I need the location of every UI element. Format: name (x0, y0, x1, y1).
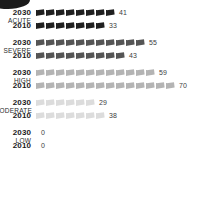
flag-icon (56, 22, 65, 29)
row-value-label: 0 (41, 126, 45, 139)
row-icon-strip (36, 96, 95, 109)
flag-icon (36, 69, 45, 76)
flag-icon (66, 69, 75, 76)
flag-icon (36, 22, 45, 29)
flag-icon (96, 112, 105, 119)
flag-icon (36, 112, 45, 119)
flag-icon (136, 39, 145, 46)
flag-icon (66, 9, 75, 16)
category-label-high: HIGH (0, 77, 36, 85)
flag-icon (76, 99, 85, 106)
flag-icon (156, 82, 165, 89)
flag-icon (46, 112, 55, 119)
flag-icon (126, 39, 135, 46)
flag-icon (66, 82, 75, 89)
flag-icon (66, 52, 75, 59)
flag-icon (66, 22, 75, 29)
row-value-label: 43 (129, 49, 137, 62)
flag-icon (86, 22, 95, 29)
flag-icon (96, 52, 105, 59)
flag-icon (86, 112, 95, 119)
flag-icon (36, 9, 45, 16)
flag-icon (106, 52, 115, 59)
flag-icon (86, 82, 95, 89)
flag-icon (66, 99, 75, 106)
flag-icon (46, 82, 55, 89)
flag-icon (136, 82, 145, 89)
flag-icon (76, 82, 85, 89)
category-label-moderate: MODERATE (0, 107, 36, 115)
flag-icon (86, 69, 95, 76)
chart-group-low: 2030020100LOW (0, 126, 215, 152)
row-value-label: 38 (109, 109, 117, 122)
flag-icon (126, 82, 135, 89)
flag-icon (146, 82, 155, 89)
flag-icon (96, 9, 105, 16)
flag-icon (76, 22, 85, 29)
row-icon-strip (36, 36, 145, 49)
flag-icon (76, 112, 85, 119)
flag-icon (116, 82, 125, 89)
row-icon-strip (36, 49, 125, 62)
flag-icon (96, 22, 105, 29)
flag-icon (136, 69, 145, 76)
chart-group-high: 203059201070HIGH (0, 66, 215, 92)
flag-icon (96, 69, 105, 76)
flag-icon (96, 82, 105, 89)
row-value-label: 41 (119, 6, 127, 19)
flag-icon (96, 39, 105, 46)
row-icon-strip (36, 66, 155, 79)
flag-icon (116, 39, 125, 46)
flag-icon (46, 99, 55, 106)
flag-icon (66, 112, 75, 119)
chart-groups-container: 203041201033ACUTE203055201043SEVERE20305… (0, 0, 215, 156)
flag-icon (76, 69, 85, 76)
flag-icon (76, 39, 85, 46)
flag-icon (46, 39, 55, 46)
pictogram-chart: 203041201033ACUTE203055201043SEVERE20305… (0, 0, 215, 201)
flag-icon (146, 69, 155, 76)
flag-icon (106, 9, 115, 16)
flag-icon (86, 99, 95, 106)
chart-group-acute: 203041201033ACUTE (0, 6, 215, 32)
flag-icon (86, 9, 95, 16)
flag-icon (126, 69, 135, 76)
chart-group-severe: 203055201043SEVERE (0, 36, 215, 62)
flag-icon (76, 9, 85, 16)
row-value-label: 59 (159, 66, 167, 79)
flag-icon (36, 99, 45, 106)
flag-icon (36, 52, 45, 59)
flag-icon (86, 39, 95, 46)
category-label-low: LOW (0, 137, 36, 145)
flag-icon (66, 39, 75, 46)
row-icon-strip (36, 109, 105, 122)
flag-icon (86, 52, 95, 59)
flag-icon (106, 69, 115, 76)
flag-icon (56, 82, 65, 89)
flag-icon (46, 22, 55, 29)
flag-icon (166, 82, 175, 89)
flag-icon (56, 112, 65, 119)
category-label-severe: SEVERE (0, 47, 36, 55)
row-value-label: 0 (41, 139, 45, 152)
flag-icon (56, 39, 65, 46)
chart-group-moderate: 203029201038MODERATE (0, 96, 215, 122)
row-icon-strip (36, 79, 175, 92)
flag-icon (76, 52, 85, 59)
flag-icon (56, 52, 65, 59)
flag-icon (46, 69, 55, 76)
row-value-label: 55 (149, 36, 157, 49)
flag-icon (116, 52, 125, 59)
flag-icon (56, 69, 65, 76)
row-value-label: 33 (109, 19, 117, 32)
row-icon-strip (36, 6, 115, 19)
row-icon-strip (36, 19, 105, 32)
flag-icon (36, 82, 45, 89)
flag-icon (116, 69, 125, 76)
row-value-label: 70 (179, 79, 187, 92)
flag-icon (36, 39, 45, 46)
category-label-acute: ACUTE (0, 17, 36, 25)
flag-icon (56, 9, 65, 16)
flag-icon (56, 99, 65, 106)
flag-icon (106, 39, 115, 46)
